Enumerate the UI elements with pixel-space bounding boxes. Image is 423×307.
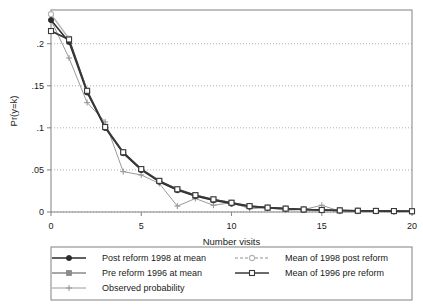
- marker-open-square: [410, 209, 415, 214]
- probability-chart-figure: 0.05.1.15.205101520Number visitsPr(y=k)P…: [0, 0, 423, 307]
- marker-open-square: [103, 124, 108, 129]
- marker-open-square: [211, 197, 216, 202]
- series-pre-reform-1996-at-mean: [49, 29, 415, 214]
- legend-label-1: Mean of 1998 post reform: [285, 253, 388, 263]
- ytick-label-0: 0: [39, 207, 44, 217]
- marker-filled-square: [67, 271, 72, 276]
- ytick-label-1: .05: [31, 165, 44, 175]
- ytick-label-4: .2: [36, 39, 44, 49]
- series-post-reform-1998-at-mean: [48, 18, 414, 214]
- marker-open-square: [373, 208, 378, 213]
- marker-open-circle: [48, 12, 53, 17]
- y-axis-title: Pr(y=k): [8, 96, 19, 127]
- marker-open-square: [193, 193, 198, 198]
- marker-open-square: [175, 187, 180, 192]
- xtick-label-1: 5: [139, 221, 144, 231]
- marker-open-square: [85, 88, 90, 93]
- series-observed-probability: [48, 17, 415, 215]
- series-line: [51, 20, 412, 212]
- marker-open-square: [319, 207, 324, 212]
- plot-frame: [51, 10, 412, 212]
- marker-open-square: [229, 200, 234, 205]
- legend-label-3: Mean of 1996 pre reform: [285, 268, 384, 278]
- marker-open-square: [250, 271, 255, 276]
- legend-label-0: Post reform 1998 at mean: [102, 253, 206, 263]
- marker-open-square: [301, 207, 306, 212]
- marker-open-square: [283, 206, 288, 211]
- marker-open-square: [265, 205, 270, 210]
- marker-open-square: [139, 167, 144, 172]
- xtick-label-0: 0: [48, 221, 53, 231]
- marker-open-square: [67, 37, 72, 42]
- marker-open-square: [337, 208, 342, 213]
- marker-open-square: [391, 209, 396, 214]
- series-mean-of-1996-pre-reform: [49, 29, 415, 214]
- ytick-label-3: .15: [31, 81, 44, 91]
- legend-label-4: Observed probability: [102, 283, 185, 293]
- x-axis-title: Number visits: [203, 236, 261, 247]
- series-mean-of-1998-post-reform: [48, 12, 414, 214]
- xtick-label-3: 15: [317, 221, 327, 231]
- ytick-label-2: .1: [36, 123, 44, 133]
- marker-open-square: [121, 150, 126, 155]
- marker-open-square: [49, 29, 54, 34]
- marker-open-square: [355, 208, 360, 213]
- xtick-label-4: 20: [407, 221, 417, 231]
- marker-open-circle: [249, 255, 254, 260]
- series-line: [51, 20, 412, 211]
- xtick-label-2: 10: [226, 221, 236, 231]
- marker-filled-circle: [48, 18, 53, 23]
- marker-filled-circle: [66, 255, 71, 260]
- marker-open-square: [247, 204, 252, 209]
- chart-canvas: 0.05.1.15.205101520Number visitsPr(y=k)P…: [0, 0, 423, 307]
- legend-label-2: Pre reform 1996 at mean: [102, 268, 202, 278]
- marker-open-square: [157, 178, 162, 183]
